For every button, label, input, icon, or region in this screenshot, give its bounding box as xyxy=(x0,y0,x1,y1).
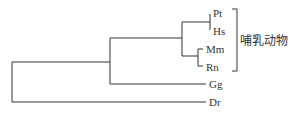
leaf-label-mm: Mm xyxy=(206,43,224,55)
leaf-label-pt: Pt xyxy=(213,7,222,19)
leaf-label-dr: Dr xyxy=(209,96,221,108)
leaf-label-rn: Rn xyxy=(206,61,219,73)
phylogenetic-tree xyxy=(0,0,290,115)
mammal-bracket xyxy=(232,9,237,71)
leaf-label-hs: Hs xyxy=(213,25,225,37)
group-label-mammals: 哺乳动物 xyxy=(240,34,288,48)
leaf-label-gg: Gg xyxy=(209,78,222,90)
